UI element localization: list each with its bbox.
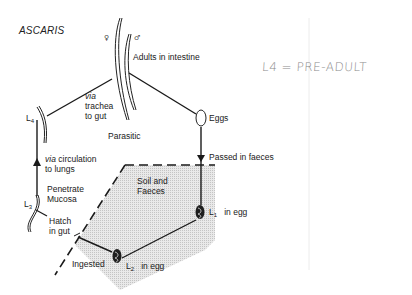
- hatch-label: Hatch in gut: [49, 216, 71, 236]
- l2-sub: 2: [131, 266, 134, 272]
- l3-sub: 3: [29, 204, 32, 210]
- hatch-tick: [74, 233, 80, 236]
- arrow-up-icon: [33, 158, 41, 166]
- circulation-line2: to lungs: [45, 164, 97, 174]
- hatch-line2: in gut: [49, 226, 71, 236]
- handwritten-annotation: L4 = PRE-ADULT: [262, 60, 368, 74]
- arrow-down-icon: [197, 155, 205, 162]
- l1-sub: 1: [214, 212, 217, 218]
- circulation-via: via: [45, 154, 56, 164]
- soil-faeces-label: Soil and Faeces: [137, 176, 168, 196]
- soil-line1: Soil and: [137, 176, 168, 186]
- hatch-line1: Hatch: [49, 216, 71, 226]
- diagram-title: ASCARIS: [19, 26, 64, 36]
- hatch-pointer: [36, 210, 47, 216]
- parasitic-label: Parasitic: [108, 131, 141, 141]
- penetrate-line2: Mucosa: [47, 194, 84, 204]
- adult-worms-icon: [115, 18, 136, 120]
- penetrate-line1: Penetrate: [47, 184, 84, 194]
- trachea-line3: to gut: [85, 111, 113, 121]
- adults-label: Adults in intestine: [133, 52, 200, 62]
- l4-label: L4: [26, 113, 34, 126]
- circulation-line1: circulation: [58, 154, 96, 164]
- female-symbol: ♀: [104, 33, 109, 43]
- l4-sub: 4: [31, 118, 34, 124]
- edge-adults-eggs: [129, 73, 196, 114]
- l1-label: L1 in egg: [209, 207, 247, 220]
- male-symbol: ♂: [134, 33, 140, 43]
- trachea-line2: trachea: [85, 101, 113, 111]
- penetrate-mucosa-label: Penetrate Mucosa: [47, 184, 84, 204]
- soil-line2: Faeces: [137, 186, 168, 196]
- l2-suffix: in egg: [141, 261, 164, 271]
- l2-egg-icon: [113, 249, 122, 263]
- l1-egg-icon: [196, 205, 205, 219]
- l2-label: L2 in egg: [126, 261, 164, 274]
- l1-suffix: in egg: [224, 207, 247, 217]
- eggs-label: Eggs: [209, 113, 228, 123]
- circulation-label: via circulation to lungs: [45, 154, 97, 174]
- trachea-via: via: [85, 91, 113, 101]
- egg-icon: [196, 110, 206, 126]
- l4-larva-icon: [37, 106, 47, 143]
- diagram-graphics: [0, 0, 412, 295]
- ingested-label: Ingested: [72, 259, 105, 269]
- ascaris-life-cycle-diagram: ASCARIS ♀ ♂ Adults in intestine via trac…: [0, 0, 412, 295]
- passed-in-faeces-label: Passed in faeces: [209, 152, 274, 162]
- trachea-label: via trachea to gut: [85, 91, 113, 121]
- l3-label: L3: [24, 199, 32, 212]
